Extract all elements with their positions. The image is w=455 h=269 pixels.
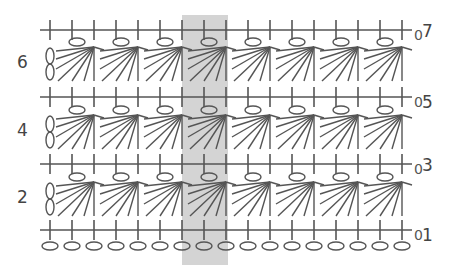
fan-rows: [46, 38, 412, 216]
chain-icon: [157, 173, 173, 181]
chain-icon: [245, 38, 261, 46]
chain-icon: [46, 48, 54, 64]
row-label-6: 6: [17, 52, 28, 72]
row-label-3: 3: [422, 155, 433, 175]
row-label-2: 2: [17, 187, 28, 207]
chain-icon: [284, 242, 300, 250]
chain-icon: [240, 242, 256, 250]
row-label-1: 1: [422, 225, 433, 245]
sc-row-1: [40, 220, 412, 240]
row-label-4: 4: [17, 120, 28, 140]
row-label-5: 5: [422, 92, 433, 112]
chain-icon: [46, 116, 54, 132]
row-label-7: 7: [422, 21, 433, 41]
chain-icon: [333, 38, 349, 46]
chain-icon: [350, 242, 366, 250]
fan-row-4: [46, 106, 412, 149]
fan-row-2: [46, 173, 412, 216]
fan-row-6: [46, 38, 412, 81]
chain-icon: [46, 132, 54, 148]
chain-icon: [245, 173, 261, 181]
chain-icon: [377, 106, 393, 114]
chain-icon: [157, 106, 173, 114]
chain-icon: [245, 106, 261, 114]
sc-row-7: [40, 20, 412, 40]
chain-icon: [328, 242, 344, 250]
chain-icon: [69, 106, 85, 114]
chain-icon: [152, 242, 168, 250]
chain-icon: [64, 242, 80, 250]
chain-icon: [69, 38, 85, 46]
chain-icon: [113, 38, 129, 46]
chain-icon: [333, 106, 349, 114]
chain-icon: [46, 64, 54, 80]
chain-icon: [377, 173, 393, 181]
sc-row-5: [40, 87, 412, 107]
chain-icon: [42, 242, 58, 250]
chain-icon: [262, 242, 278, 250]
crochet-chart: 0000: [0, 0, 455, 269]
sc-row-3: [40, 154, 412, 174]
chain-icon: [333, 173, 349, 181]
chain-icon: [113, 106, 129, 114]
chain-icon: [113, 173, 129, 181]
chain-icon: [69, 173, 85, 181]
chain-icon: [108, 242, 124, 250]
chain-icon: [46, 199, 54, 215]
chain-icon: [130, 242, 146, 250]
chain-icon: [394, 242, 410, 250]
chain-icon: [306, 242, 322, 250]
chain-icon: [289, 106, 305, 114]
chain-icon: [289, 173, 305, 181]
turning-chains: 0000: [414, 27, 423, 243]
chain-icon: [157, 38, 173, 46]
chain-icon: [86, 242, 102, 250]
chain-icon: [377, 38, 393, 46]
chain-icon: [46, 183, 54, 199]
chain-icon: [372, 242, 388, 250]
chain-icon: [289, 38, 305, 46]
